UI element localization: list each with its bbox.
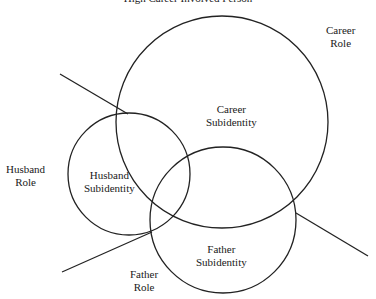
father-circle: [150, 147, 296, 293]
father-subidentity-line1: Father: [196, 243, 247, 256]
career-role-line: [296, 213, 368, 256]
father-role-line: [62, 232, 152, 272]
father-role-line2: Role: [130, 281, 158, 294]
husband-role-line1: Husband: [6, 163, 45, 176]
father-role-label: Father Role: [130, 268, 158, 294]
career-subidentity-label: Career Subidentity: [206, 103, 257, 129]
career-role-line2: Role: [326, 37, 355, 50]
husband-subidentity-line1: Husband: [84, 169, 135, 182]
career-role-label: Career Role: [326, 24, 355, 50]
career-role-line1: Career: [326, 24, 355, 37]
husband-role-line: [60, 74, 128, 114]
husband-subidentity-line2: Subidentity: [84, 182, 135, 195]
husband-role-line2: Role: [6, 176, 45, 189]
father-subidentity-label: Father Subidentity: [196, 243, 247, 269]
husband-role-label: Husband Role: [6, 163, 45, 189]
career-subidentity-line1: Career: [206, 103, 257, 116]
diagram-shapes: [0, 0, 376, 299]
father-subidentity-line2: Subidentity: [196, 256, 247, 269]
father-role-line1: Father: [130, 268, 158, 281]
husband-subidentity-label: Husband Subidentity: [84, 169, 135, 195]
career-subidentity-line2: Subidentity: [206, 116, 257, 129]
identity-diagram: High Career Involved Person Career Role …: [0, 0, 376, 299]
